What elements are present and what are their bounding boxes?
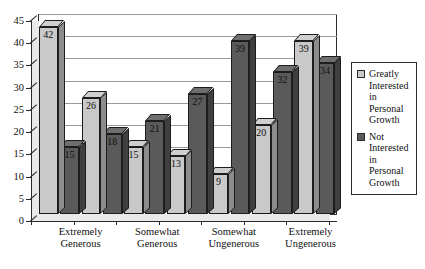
legend-label: NotInterestedin PersonalGrowth xyxy=(369,131,412,189)
y-axis-label: 10 xyxy=(2,172,24,182)
y-axis-label: 15 xyxy=(2,149,24,159)
x-axis-tick xyxy=(201,221,202,225)
bar-value-label: 39 xyxy=(294,44,313,54)
bar-side-face xyxy=(228,168,235,214)
bar-side-face xyxy=(271,119,278,214)
bar-side-face xyxy=(122,128,129,214)
bar-side-face xyxy=(249,35,256,214)
bar-side-face xyxy=(334,57,341,214)
x-axis-tick xyxy=(116,221,117,225)
x-axis-tick xyxy=(74,221,75,225)
bar-value-label: 26 xyxy=(82,101,101,111)
bar: 42 xyxy=(39,27,58,214)
legend-swatch-icon xyxy=(357,70,365,78)
bar-side-face xyxy=(79,141,86,214)
x-axis-tick xyxy=(244,221,245,225)
legend: GreatlyInterestedin PersonalGrowth NotIn… xyxy=(351,62,417,195)
bar-value-label: 42 xyxy=(39,30,58,40)
bar-front-face xyxy=(39,27,58,214)
y-axis-label: 40 xyxy=(2,38,24,48)
bar-chart: 051015202530354045 421526181521132793920… xyxy=(0,0,425,269)
bar-side-face xyxy=(58,21,65,214)
x-axis-category-label: ExtremelyUngenerous xyxy=(265,226,355,250)
bar-side-face xyxy=(100,92,107,214)
x-axis-tick xyxy=(329,221,330,225)
bar-value-label: 27 xyxy=(188,97,207,107)
x-axis-tick xyxy=(159,221,160,225)
bar-side-face xyxy=(313,35,320,214)
x-axis-tick xyxy=(286,221,287,225)
y-axis-label: 30 xyxy=(2,83,24,93)
x-axis-tick xyxy=(31,221,32,225)
y-axis-label: 45 xyxy=(2,16,24,26)
bar-side-face xyxy=(164,115,171,214)
legend-item-greatly-interested: GreatlyInterestedin PersonalGrowth xyxy=(357,68,412,126)
bar-side-face xyxy=(185,150,192,214)
plot-area: 051015202530354045 421526181521132793920… xyxy=(31,14,337,222)
bar-value-label: 21 xyxy=(145,124,164,134)
legend-label: GreatlyInterestedin PersonalGrowth xyxy=(369,68,412,126)
legend-swatch-icon xyxy=(357,133,365,141)
bar-side-face xyxy=(292,66,299,214)
bar-side-face xyxy=(207,88,214,214)
legend-item-not-interested: NotInterestedin PersonalGrowth xyxy=(357,131,412,189)
y-axis-label: 5 xyxy=(2,194,24,204)
y-axis-label: 25 xyxy=(2,105,24,115)
bars-layer: 421526181521132793920323934 xyxy=(31,14,337,222)
y-axis-label: 20 xyxy=(2,127,24,137)
bar-value-label: 39 xyxy=(231,44,250,54)
bar-side-face xyxy=(143,141,150,214)
y-axis-label: 0 xyxy=(2,216,24,226)
bar-value-label: 32 xyxy=(273,75,292,85)
y-axis-label: 35 xyxy=(2,60,24,70)
